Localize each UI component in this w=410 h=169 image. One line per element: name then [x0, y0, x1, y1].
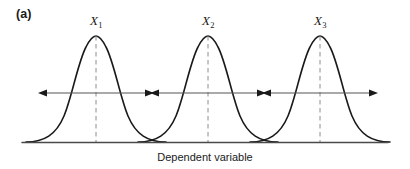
curve-label-x2-subscript: 2 [210, 20, 214, 30]
x-axis-title: Dependent variable [0, 152, 410, 163]
curve-label-x2: X2 [202, 14, 214, 27]
curve-label-x1: X1 [90, 14, 102, 27]
curve-label-x1-subscript: 1 [98, 20, 102, 30]
curve-label-x3-subscript: 3 [322, 20, 326, 30]
figure-panel-a: (a) X1 X2 X3 Dependent variable [0, 0, 410, 169]
panel-label: (a) [16, 8, 32, 21]
mean-dashed-lines [96, 36, 320, 142]
curve-label-x2-symbol: X [202, 13, 210, 28]
curve-label-x3-symbol: X [314, 13, 322, 28]
curve-label-x1-symbol: X [90, 13, 98, 28]
curve-label-x3: X3 [314, 14, 326, 27]
